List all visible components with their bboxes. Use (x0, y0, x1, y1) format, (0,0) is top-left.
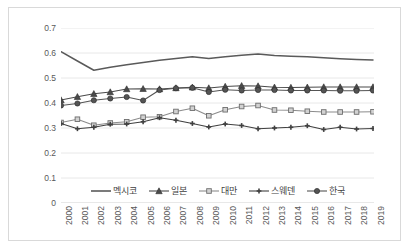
x-tick-label: 2002 (97, 206, 106, 225)
legend-swatch-icon (306, 186, 328, 196)
y-tick-label: 0 (10, 199, 56, 208)
x-tick-label: 2012 (262, 206, 271, 225)
x-tick-label: 2004 (130, 206, 139, 225)
series-3 (61, 115, 374, 132)
series-4 (61, 85, 374, 108)
chart-legend: 멕시코일본대만스웨덴한국 (61, 183, 374, 199)
y-tick-label: 0.2 (10, 149, 56, 158)
y-tick-label: 0.7 (10, 24, 56, 33)
legend-item[interactable]: 대만 (198, 186, 237, 196)
x-tick-label: 2006 (163, 206, 172, 225)
x-tick-label: 2007 (179, 206, 188, 225)
x-tick-label: 2005 (147, 206, 156, 225)
x-tick-label: 2019 (377, 206, 386, 225)
y-tick-label: 0.3 (10, 124, 56, 133)
y-tick-label: 0.6 (10, 49, 56, 58)
x-tick-label: 2001 (81, 206, 90, 225)
x-tick-label: 2017 (344, 206, 353, 225)
legend-label: 대만 (221, 187, 237, 196)
legend-label: 한국 (329, 187, 345, 196)
legend-item[interactable]: 일본 (148, 186, 187, 196)
legend-swatch-icon (248, 186, 270, 196)
legend-swatch-icon (90, 186, 112, 196)
gridlines (61, 28, 374, 178)
x-tick-label: 2016 (327, 206, 336, 225)
y-tick-label: 0.5 (10, 74, 56, 83)
legend-label: 멕시코 (113, 187, 137, 196)
plot-svg (61, 28, 374, 203)
plot-area (61, 28, 374, 203)
y-tick-label: 0.4 (10, 99, 56, 108)
x-tick-label: 2015 (311, 206, 320, 225)
legend-item[interactable]: 멕시코 (90, 186, 137, 196)
x-tick-label: 2018 (360, 206, 369, 225)
x-tick-label: 2014 (294, 206, 303, 225)
legend-label: 스웨덴 (271, 187, 295, 196)
x-tick-label: 2011 (245, 206, 254, 224)
legend-item[interactable]: 스웨덴 (248, 186, 295, 196)
legend-swatch-icon (198, 186, 220, 196)
y-axis: 00.10.20.30.40.50.60.7 (4, 0, 56, 249)
series-0 (61, 52, 373, 71)
y-tick-label: 0.1 (10, 174, 56, 183)
x-axis: 2000200120022003200420052006200720082009… (61, 204, 374, 246)
x-tick-label: 2013 (278, 206, 287, 225)
x-tick-label: 2000 (65, 206, 74, 225)
x-tick-label: 2003 (114, 206, 123, 225)
x-tick-label: 2010 (229, 206, 238, 225)
legend-label: 일본 (171, 187, 187, 196)
legend-item[interactable]: 한국 (306, 186, 345, 196)
line-chart: 00.10.20.30.40.50.60.7 20002001200220032… (0, 0, 409, 249)
x-tick-label: 2009 (212, 206, 221, 225)
legend-swatch-icon (148, 186, 170, 196)
x-tick-label: 2008 (196, 206, 205, 225)
